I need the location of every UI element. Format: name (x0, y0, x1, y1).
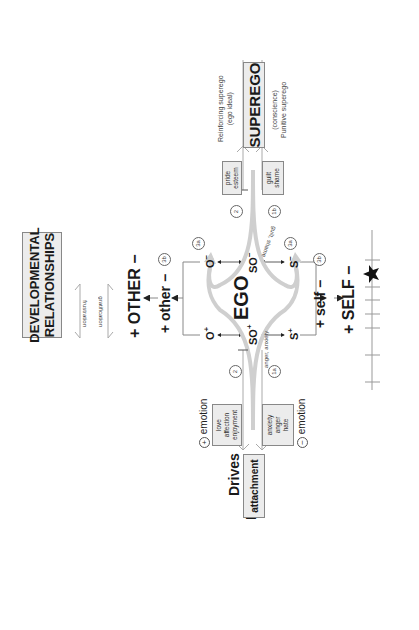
marker-1b: 1b (268, 205, 281, 218)
superego-label: SUPEREGO (246, 62, 263, 147)
title-line-1: DEVELOPMENTAL (27, 227, 42, 342)
attachment-label: attachment (249, 459, 260, 512)
pride-esteem-box: prideesteem (222, 161, 242, 195)
gratification-label: gratification (98, 296, 104, 327)
self-upper-label: + SELF − (340, 266, 358, 334)
anger-anxiety-path-label: anger, anxiety (263, 331, 269, 368)
drives-label: Drives (226, 453, 242, 496)
title-box: DEVELOPMENTAL RELATIONSHIPS (22, 232, 62, 338)
anxiety-anger-box: anxietyangerhate (262, 404, 294, 446)
star-icon (363, 265, 379, 283)
superego-box: SUPEREGO (243, 62, 265, 148)
marker-3a-bottom: 3a (284, 237, 297, 250)
plus-circle-icon: + (199, 437, 210, 448)
positive-emotion-label: + emotion (198, 399, 210, 448)
negative-emotion-label: − emotion (296, 399, 308, 448)
ego-label: EGO (230, 276, 253, 320)
marker-1a: 1a (268, 365, 281, 378)
marker-2-id: 2 (229, 365, 242, 378)
node-o-plus: O+ (202, 327, 216, 340)
love-affection-box: loveaffectionenjoyment (212, 404, 242, 446)
superego-upper-note: Reinforcing superego (ego ideal) (216, 75, 234, 142)
node-s-plus: S+ (286, 328, 300, 340)
other-lower-label: + other − (157, 274, 173, 333)
node-so-plus: SO+ (245, 324, 259, 345)
self-lower-label: + self − (312, 280, 328, 328)
node-so-minus: SO− (245, 252, 259, 273)
guilt-shame-box: guiltshame (262, 161, 284, 195)
marker-3b-self: 3b (313, 253, 326, 266)
node-s-minus: S− (286, 256, 300, 268)
marker-3b-other: 3b (158, 253, 171, 266)
minus-circle-icon: − (297, 437, 308, 448)
diagram-canvas: DEVELOPMENTAL RELATIONSHIPS frustration … (0, 0, 419, 630)
marker-3a-top: 3a (192, 237, 205, 250)
title-line-2: RELATIONSHIPS (42, 233, 57, 338)
marker-2-superego: 2 (230, 205, 243, 218)
node-o-minus: O− (202, 255, 216, 268)
attachment-box: attachment (243, 454, 265, 518)
superego-lower-note: (conscience) Punitive superego (270, 82, 288, 138)
other-upper-label: + OTHER − (126, 254, 144, 338)
frustration-label: frustration (82, 300, 88, 327)
